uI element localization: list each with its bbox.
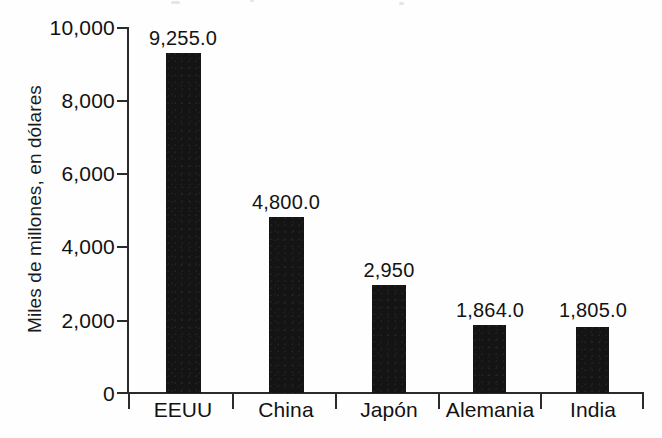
bar-chart: Miles de millones, en dólares 10,000 8,0…: [0, 0, 662, 438]
bar-alemania[interactable]: [473, 325, 506, 393]
category-label-eeuu: EEUU: [123, 398, 243, 422]
category-label-india: India: [533, 398, 653, 422]
plot-area: 9,255.0 EEUU 4,800.0 China 2,950 Japón 1…: [0, 0, 662, 438]
bar-china[interactable]: [269, 217, 304, 393]
bar-value-alemania: 1,864.0: [430, 299, 550, 322]
bar-value-japon: 2,950: [329, 259, 449, 282]
bar-eeuu[interactable]: [166, 53, 201, 393]
category-label-alemania: Alemania: [430, 398, 550, 422]
category-label-china: China: [226, 398, 346, 422]
bar-value-eeuu: 9,255.0: [123, 27, 243, 50]
bar-japon[interactable]: [372, 285, 406, 393]
bar-india[interactable]: [576, 327, 609, 393]
bar-value-china: 4,800.0: [226, 191, 346, 214]
bar-value-india: 1,805.0: [533, 299, 653, 322]
